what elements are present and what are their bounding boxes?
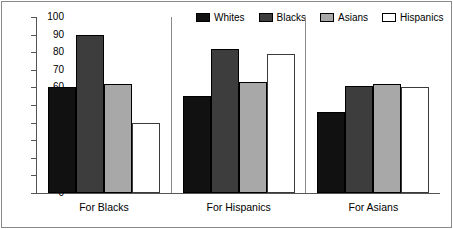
- category-label: For Blacks: [79, 202, 129, 213]
- y-tick-mark: [31, 193, 36, 194]
- bar-blacks-for-blacks: [76, 35, 104, 193]
- category-label: For Hispanics: [207, 202, 271, 213]
- plot-area: 0102030405060708090100: [36, 17, 440, 193]
- bar-asians-for-asians: [373, 84, 401, 193]
- bar-asians-for-blacks: [104, 84, 132, 193]
- bar-hispanics-for-hispanics: [267, 54, 295, 193]
- bar-whites-for-blacks: [48, 87, 76, 193]
- bar-whites-for-asians: [317, 112, 345, 193]
- bar-group: [36, 17, 171, 193]
- bar-hispanics-for-blacks: [132, 123, 160, 193]
- bar-asians-for-hispanics: [239, 82, 267, 193]
- category-label: For Asians: [349, 202, 399, 213]
- x-axis-line: [36, 193, 440, 194]
- bar-chart-figure: Whites Blacks Asians Hispanics 010203040…: [0, 0, 453, 229]
- bar-blacks-for-asians: [345, 86, 373, 193]
- bar-group: [171, 17, 306, 193]
- bar-group: [305, 17, 440, 193]
- bar-whites-for-hispanics: [183, 96, 211, 193]
- bar-hispanics-for-asians: [401, 87, 429, 193]
- bar-blacks-for-hispanics: [211, 49, 239, 193]
